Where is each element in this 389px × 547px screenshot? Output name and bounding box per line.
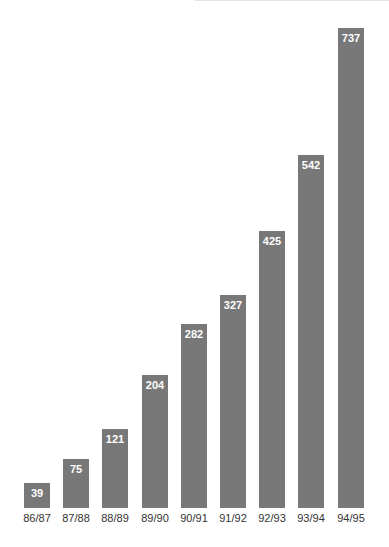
x-axis-tick-label: 90/91 bbox=[174, 512, 214, 524]
bar-93-94: 542 bbox=[298, 155, 324, 508]
bar-value-label: 542 bbox=[298, 159, 324, 171]
bar-91-92: 327 bbox=[220, 295, 246, 508]
x-axis-tick-label: 94/95 bbox=[331, 512, 371, 524]
bar-90-91: 282 bbox=[181, 324, 207, 508]
bar-92-93: 425 bbox=[259, 231, 285, 508]
bar-94-95: 737 bbox=[338, 28, 364, 508]
x-axis-tick-label: 91/92 bbox=[213, 512, 253, 524]
bar-89-90: 204 bbox=[142, 375, 168, 508]
bar-value-label: 75 bbox=[63, 463, 89, 475]
x-axis-tick-label: 88/89 bbox=[95, 512, 135, 524]
x-axis-tick-label: 87/88 bbox=[56, 512, 96, 524]
bar-value-label: 425 bbox=[259, 235, 285, 247]
x-axis-tick-label: 89/90 bbox=[135, 512, 175, 524]
bar-value-label: 737 bbox=[338, 32, 364, 44]
bar-86-87: 39 bbox=[24, 483, 50, 508]
bar-value-label: 327 bbox=[220, 299, 246, 311]
x-axis-tick-label: 92/93 bbox=[252, 512, 292, 524]
bar-value-label: 204 bbox=[142, 379, 168, 391]
bar-87-88: 75 bbox=[63, 459, 89, 508]
x-axis-tick-label: 86/87 bbox=[17, 512, 57, 524]
bar-chart: 3986/877587/8812188/8920489/9028290/9132… bbox=[0, 0, 389, 547]
bar-value-label: 121 bbox=[102, 433, 128, 445]
bar-value-label: 39 bbox=[24, 487, 50, 499]
bar-88-89: 121 bbox=[102, 429, 128, 508]
x-axis-tick-label: 93/94 bbox=[291, 512, 331, 524]
bar-value-label: 282 bbox=[181, 328, 207, 340]
